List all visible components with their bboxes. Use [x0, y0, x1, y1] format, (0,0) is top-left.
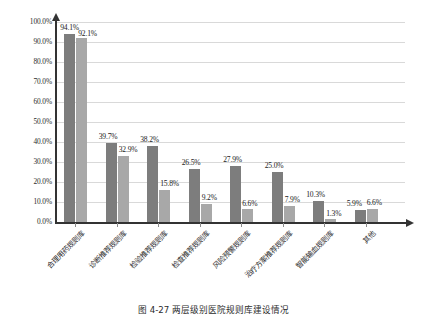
bar-series-2-2: [159, 190, 170, 222]
bar-series-2-7: [367, 209, 378, 222]
data-label-series-1-1: 39.7%: [99, 133, 118, 141]
data-label-series-2-7: 6.6%: [367, 199, 382, 207]
data-label-series-1-7: 5.9%: [347, 200, 362, 208]
data-label-series-2-0: 92.1%: [78, 30, 97, 38]
x-axis-tick: [283, 223, 284, 227]
x-axis-tick: [75, 223, 76, 227]
x-axis-category-label-6: 智能输血规则库: [294, 229, 335, 270]
figure-caption: 图 4-27 两层级别医院规则库建设情况: [0, 305, 427, 316]
bar-series-1-3: [189, 169, 200, 222]
x-axis-category-label-3: 检查推荐规则库: [170, 229, 211, 270]
data-label-series-2-3: 9.2%: [202, 194, 217, 202]
y-axis-tick-label: 40.0%: [4, 138, 52, 146]
x-axis-category-label-7: 其他: [361, 229, 377, 245]
bar-series-1-1: [106, 143, 117, 222]
gridline: [55, 122, 405, 123]
x-axis-tick: [324, 223, 325, 227]
bar-series-1-4: [230, 166, 241, 222]
x-axis-tick: [241, 223, 242, 227]
data-label-series-1-4: 27.9%: [223, 156, 242, 164]
x-axis-tick: [366, 223, 367, 227]
bar-series-1-5: [272, 172, 283, 222]
data-label-series-1-2: 38.2%: [140, 136, 159, 144]
y-axis-tick-label: 90.0%: [4, 38, 52, 46]
bar-series-1-6: [313, 201, 324, 222]
x-axis-line: [55, 222, 407, 224]
x-axis-tick: [158, 223, 159, 227]
bar-series-2-1: [118, 156, 129, 222]
data-label-series-1-0: 94.1%: [60, 24, 79, 32]
gridline: [55, 102, 405, 103]
data-label-series-2-6: 1.3%: [326, 210, 341, 218]
figure-container: 100.0%90.0%80.0%70.0%60.0%50.0%40.0%30.0…: [0, 0, 427, 317]
data-label-series-1-6: 10.3%: [306, 191, 325, 199]
y-axis-tick-label: 100.0%: [4, 18, 52, 26]
data-label-series-2-5: 7.9%: [285, 196, 300, 204]
data-label-series-2-1: 32.9%: [119, 146, 138, 154]
x-axis-tick: [117, 223, 118, 227]
x-axis-tick: [200, 223, 201, 227]
y-axis-tick-label: 30.0%: [4, 158, 52, 166]
bar-series-2-0: [76, 38, 87, 222]
y-axis-line: [55, 20, 57, 224]
bar-series-2-3: [201, 204, 212, 222]
chart-plot-area: 100.0%90.0%80.0%70.0%60.0%50.0%40.0%30.0…: [0, 0, 427, 317]
y-axis-tick-label: 80.0%: [4, 58, 52, 66]
x-axis-category-label-2: 检验推荐规则库: [128, 229, 169, 270]
y-axis-tick-label: 70.0%: [4, 78, 52, 86]
x-axis-category-label-1: 诊断推荐规则库: [87, 229, 128, 270]
data-label-series-1-5: 25.0%: [265, 162, 284, 170]
y-axis-tick-label: 20.0%: [4, 178, 52, 186]
bar-series-2-6: [325, 219, 336, 222]
y-axis-tick-label: 0.0%: [4, 218, 52, 226]
gridline: [55, 22, 405, 23]
gridline: [55, 42, 405, 43]
y-axis-tick-label: 10.0%: [4, 198, 52, 206]
data-label-series-2-4: 6.6%: [242, 200, 257, 208]
y-axis-tick-label: 50.0%: [4, 118, 52, 126]
bar-series-2-5: [284, 206, 295, 222]
gridline: [55, 62, 405, 63]
bar-series-1-0: [64, 34, 75, 222]
data-label-series-2-2: 15.8%: [160, 180, 179, 188]
data-label-series-1-3: 26.5%: [182, 159, 201, 167]
y-axis-tick-label: 60.0%: [4, 98, 52, 106]
bar-series-1-7: [355, 210, 366, 222]
gridline: [55, 82, 405, 83]
x-axis-category-label-4: 风险预警规则库: [211, 229, 252, 270]
bar-series-2-4: [242, 209, 253, 222]
bar-series-1-2: [147, 146, 158, 222]
x-axis-category-label-0: 合理用药规则库: [45, 229, 86, 270]
